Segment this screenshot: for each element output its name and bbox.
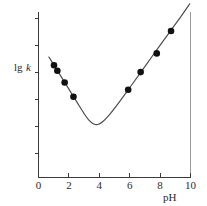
- x-axis-tick-labels: 0 2 4 6 8 10: [36, 179, 197, 191]
- y-axis-title: lg k: [14, 61, 32, 73]
- x-tick-label: 2: [66, 179, 72, 191]
- x-tick-label: 0: [36, 179, 42, 191]
- data-point: [137, 69, 144, 76]
- y-axis-ticks: [35, 19, 39, 154]
- data-point: [125, 86, 132, 93]
- fitted-curve-line: [49, 4, 190, 125]
- y-axis-title-prefix: lg: [14, 61, 23, 73]
- x-tick-label: 8: [157, 179, 163, 191]
- x-axis-title: pH: [163, 191, 177, 203]
- ph-rate-profile-chart: 0 2 4 6 8 10 lg k pH: [0, 0, 207, 206]
- x-tick-label: 4: [97, 179, 103, 191]
- chart-figure: 0 2 4 6 8 10 lg k pH: [0, 0, 207, 206]
- data-point: [51, 62, 58, 69]
- data-point: [168, 28, 175, 35]
- data-point: [153, 50, 160, 57]
- data-point: [70, 93, 77, 100]
- x-tick-label: 10: [185, 179, 197, 191]
- data-point: [54, 67, 61, 74]
- x-tick-label: 6: [127, 179, 133, 191]
- x-axis-ticks: [39, 173, 191, 178]
- y-axis-title-symbol: k: [26, 61, 32, 73]
- data-point: [61, 79, 68, 86]
